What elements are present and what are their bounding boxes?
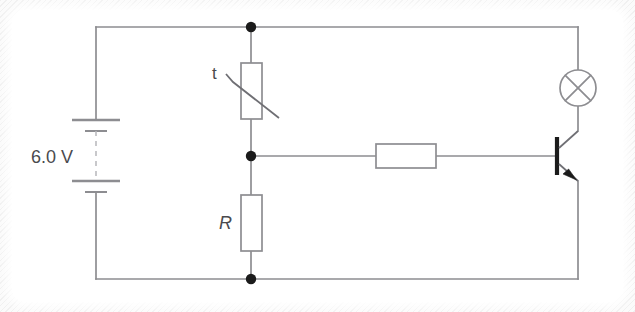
transistor-emitter-arrow <box>563 169 577 180</box>
junction-node-mid <box>246 151 256 161</box>
npn-transistor-symbol <box>557 131 578 181</box>
thermistor-symbol <box>226 63 279 119</box>
resistor-r-symbol <box>241 195 262 251</box>
thermistor-label: t <box>212 64 217 83</box>
resistor-r-label: R <box>219 213 232 233</box>
resistor-r-body <box>241 195 262 251</box>
lamp-symbol <box>560 70 596 106</box>
supply-voltage-label: 6.0 V <box>31 147 73 167</box>
base-resistor-body <box>376 144 436 168</box>
battery-symbol <box>72 120 120 192</box>
junction-node-bottom <box>246 274 256 284</box>
base-resistor-symbol <box>376 144 436 168</box>
wire-group <box>96 27 578 279</box>
junction-node-top <box>246 22 256 32</box>
transistor-collector-lead <box>559 131 578 148</box>
figure-page: 6.0 V t R <box>0 0 635 312</box>
circuit-diagram: 6.0 V t R <box>0 0 635 312</box>
